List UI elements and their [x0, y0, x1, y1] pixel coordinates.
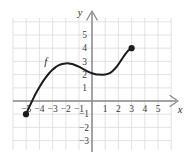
x-tick-label: −2 — [61, 104, 71, 114]
graph-figure: y x −5 −4 −3 −2 −1 1 2 3 4 5 5 4 3 2 1 −… — [0, 0, 193, 161]
x-tick-label: 4 — [142, 104, 147, 114]
x-tick-label: 3 — [129, 104, 134, 114]
x-axis-label: x — [177, 104, 183, 115]
y-tick-label: 4 — [82, 43, 87, 53]
curve-endpoint-left — [23, 111, 29, 117]
x-tick-label: −4 — [34, 104, 44, 114]
y-tick-label: −2 — [79, 123, 89, 133]
y-tick-labels-negative: −1 −2 −3 — [79, 109, 89, 145]
y-tick-label: −1 — [79, 109, 89, 119]
coordinate-plane-svg: y x −5 −4 −3 −2 −1 1 2 3 4 5 5 4 3 2 1 −… — [0, 0, 193, 161]
y-axis-label: y — [77, 7, 83, 18]
y-tick-labels-positive: 5 4 3 2 1 — [82, 30, 87, 93]
x-tick-labels-positive: 1 2 3 4 5 — [103, 104, 161, 114]
x-tick-label: 1 — [103, 104, 108, 114]
axis-lines — [13, 11, 178, 152]
x-tick-label: 2 — [116, 104, 121, 114]
y-tick-label: −3 — [79, 136, 89, 146]
y-tick-label: 1 — [82, 83, 87, 93]
curve-endpoint-right — [129, 45, 135, 51]
x-tick-label: 5 — [156, 104, 161, 114]
y-tick-label: 5 — [82, 30, 87, 40]
curve-label: f — [44, 55, 49, 67]
y-tick-label: 3 — [82, 57, 87, 67]
x-tick-label: −3 — [48, 104, 58, 114]
